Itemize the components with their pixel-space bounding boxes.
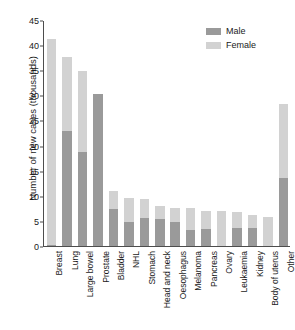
bar-segment-male xyxy=(186,230,196,246)
bar-prostate xyxy=(93,94,103,246)
y-axis-title: Number of new cases (thousands) xyxy=(27,19,38,239)
bar-segment-male xyxy=(155,219,165,246)
bar-kidney xyxy=(248,215,258,246)
bar-segment-female xyxy=(78,71,88,152)
x-tick-label: Other xyxy=(287,251,295,272)
bar-segment-female xyxy=(109,191,119,209)
x-tick-label: Large bowel xyxy=(86,251,95,297)
legend-label-male: Male xyxy=(226,27,246,36)
bar-body-of-uterus xyxy=(263,217,273,246)
bar-bladder xyxy=(109,191,119,246)
y-tick-mark xyxy=(40,71,43,72)
bar-breast xyxy=(47,39,57,246)
bar-segment-female xyxy=(170,208,180,223)
bar-segment-female xyxy=(124,198,134,222)
bar-segment-female xyxy=(140,199,150,218)
legend-item-female: Female xyxy=(206,39,256,51)
bar-segment-male xyxy=(232,228,242,246)
x-tick-label: Pancreas xyxy=(210,251,219,287)
y-tick-mark xyxy=(40,46,43,47)
x-tick-label: Prostate xyxy=(102,251,111,283)
y-tick-mark xyxy=(40,196,43,197)
bar-segment-female xyxy=(201,211,211,229)
x-tick-label: Breast xyxy=(55,251,64,276)
bars-layer xyxy=(44,21,290,246)
bar-lung xyxy=(62,57,72,246)
legend: Male Female xyxy=(206,25,256,53)
bar-segment-female xyxy=(279,104,289,178)
bar-melanoma xyxy=(186,208,196,246)
x-tick-label: Head and neck xyxy=(163,251,172,308)
y-tick-mark xyxy=(40,247,43,248)
y-tick-mark xyxy=(40,171,43,172)
x-tick-label: Kidney xyxy=(256,251,265,277)
bar-head-and-neck xyxy=(155,206,165,246)
bar-segment-male xyxy=(248,228,258,246)
y-tick-mark xyxy=(40,121,43,122)
bar-segment-female xyxy=(186,208,196,230)
x-tick-label: Ovary xyxy=(225,251,234,274)
bar-other xyxy=(279,104,289,246)
x-tick-label: NHL xyxy=(132,251,141,268)
bar-segment-male xyxy=(109,209,119,246)
y-tick-mark xyxy=(40,21,43,22)
legend-swatch-female-icon xyxy=(206,42,221,49)
bar-segment-male xyxy=(47,245,57,247)
legend-swatch-male-icon xyxy=(206,28,221,35)
bar-ovary xyxy=(217,211,227,246)
bar-segment-male xyxy=(93,94,103,246)
y-tick-mark xyxy=(40,146,43,147)
bar-segment-female xyxy=(248,215,258,228)
x-tick-label: Lung xyxy=(71,251,80,270)
y-tick-mark xyxy=(40,96,43,97)
legend-label-female: Female xyxy=(226,41,256,50)
bar-segment-male xyxy=(62,131,72,247)
bar-segment-male xyxy=(124,222,134,246)
bar-oesophagus xyxy=(170,208,180,246)
bar-segment-female xyxy=(62,57,72,130)
x-tick-label: Stomach xyxy=(148,251,157,285)
bar-segment-female xyxy=(47,39,57,244)
bar-pancreas xyxy=(201,211,211,246)
bar-segment-female xyxy=(155,206,165,219)
bar-leukaemia xyxy=(232,212,242,246)
x-axis-line xyxy=(43,246,290,247)
bar-segment-female xyxy=(232,212,242,228)
plot-area: 454035302520151050 xyxy=(43,21,290,247)
x-tick-label: Oesophagus xyxy=(179,251,188,299)
bar-chart: Number of new cases (thousands) 45403530… xyxy=(0,0,295,330)
bar-large-bowel xyxy=(78,71,88,246)
y-tick-mark xyxy=(40,221,43,222)
x-tick-label: Leukaemia xyxy=(240,251,249,293)
bar-segment-male xyxy=(279,178,289,246)
bar-segment-female xyxy=(263,217,273,246)
x-tick-label: Bladder xyxy=(117,251,126,280)
bar-nhl xyxy=(124,198,134,246)
x-tick-label: Body of uterus xyxy=(271,251,280,306)
bar-segment-male xyxy=(201,229,211,246)
bar-segment-male xyxy=(140,218,150,246)
x-tick-label: Melanoma xyxy=(194,251,203,291)
bar-segment-female xyxy=(217,211,227,246)
legend-item-male: Male xyxy=(206,25,256,37)
bar-stomach xyxy=(140,199,150,246)
bar-segment-male xyxy=(170,222,180,246)
bar-segment-male xyxy=(78,152,88,246)
